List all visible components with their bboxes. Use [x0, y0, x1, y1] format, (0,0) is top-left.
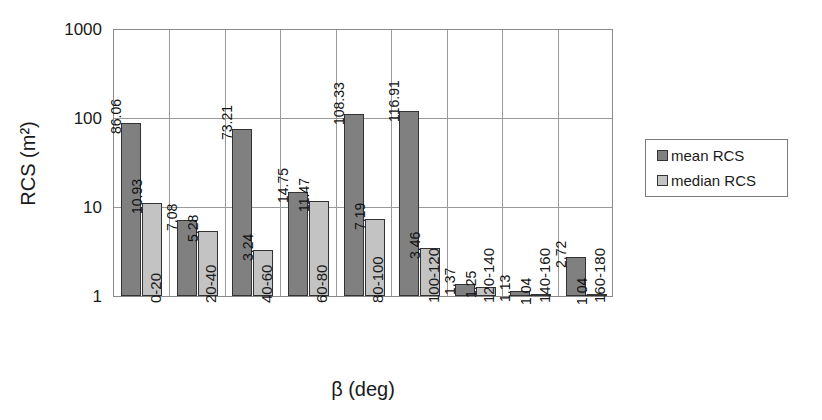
legend-item-mean-rcs[interactable]: mean RCS — [657, 148, 744, 163]
x-tick-label: 0-20 — [148, 273, 163, 303]
x-tick-label: 60-80 — [314, 265, 329, 303]
y-tick-label: 1000 — [2, 21, 102, 38]
bar-value-label: 11.47 — [297, 178, 311, 212]
category-separator — [280, 30, 281, 296]
x-tick-label: 20-40 — [203, 265, 218, 303]
x-tick-20-40: 20-40 — [169, 299, 225, 379]
y-tick-label: 1 — [2, 288, 102, 305]
x-tick-60-80: 60-80 — [280, 299, 336, 379]
chart-legend: mean RCS median RCS — [645, 139, 788, 197]
category-separator — [447, 30, 448, 296]
bar-value-label: 14.75 — [276, 168, 290, 203]
x-tick-label: 100-120 — [426, 248, 441, 303]
x-tick-40-60: 40-60 — [224, 299, 280, 379]
bar-value-label: 7.19 — [353, 203, 367, 230]
x-tick-label: 120-140 — [481, 248, 496, 303]
legend-item-median-rcs[interactable]: median RCS — [657, 173, 756, 188]
bar-value-label: 86.06 — [109, 99, 123, 134]
bar-value-label: 108.33 — [332, 82, 346, 125]
y-axis: 1000 100 10 1 RCS (m²) — [0, 0, 113, 420]
bar-value-label: 3.46 — [408, 232, 422, 259]
category-separator — [225, 30, 226, 296]
category-separator — [336, 30, 337, 296]
bar-value-label: 7.08 — [165, 204, 179, 231]
x-tick-label: 140-160 — [537, 248, 552, 303]
x-tick-80-100: 80-100 — [335, 299, 391, 379]
x-tick-140-160: 140-160 — [502, 299, 558, 379]
bar-value-label: 116.91 — [387, 80, 401, 122]
y-axis-title: RCS (m²) — [17, 74, 40, 254]
bar-mean-40-60[interactable] — [232, 129, 252, 296]
x-tick-label: 80-100 — [370, 256, 385, 303]
bar-mean-100-120[interactable] — [399, 111, 419, 296]
bar-value-label: 3.24 — [241, 234, 255, 261]
x-tick-120-140: 120-140 — [446, 299, 502, 379]
bar-value-label: 1.37 — [443, 268, 457, 295]
bar-value-label: 10.93 — [130, 179, 144, 214]
x-axis: 0-2020-4040-6060-8080-100100-120120-1401… — [113, 299, 613, 379]
chart-figure: 1000 100 10 1 RCS (m²) 86.0610.937.085.2… — [0, 0, 822, 420]
x-tick-0-20: 0-20 — [113, 299, 169, 379]
category-separator — [169, 30, 170, 296]
x-tick-160-180: 160-180 — [557, 299, 613, 379]
legend-swatch-icon — [657, 175, 668, 186]
x-tick-100-120: 100-120 — [391, 299, 447, 379]
category-separator — [502, 30, 503, 296]
x-tick-label: 160-180 — [592, 248, 607, 303]
bar-value-label: 1.25 — [464, 271, 478, 298]
legend-label: median RCS — [671, 173, 756, 188]
x-tick-label: 40-60 — [259, 265, 274, 303]
legend-label: mean RCS — [671, 148, 744, 163]
bar-value-label: 2.72 — [554, 241, 568, 268]
x-axis-title: β (deg) — [113, 378, 613, 401]
legend-swatch-icon — [657, 150, 668, 161]
bar-value-label: 73.21 — [220, 105, 234, 140]
category-separator — [391, 30, 392, 296]
bar-value-label: 5.28 — [186, 215, 200, 242]
